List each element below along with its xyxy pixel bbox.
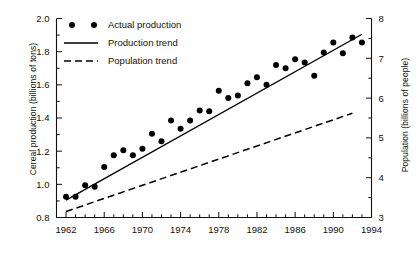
y2-tick-label: 5 bbox=[379, 132, 384, 143]
data-point bbox=[359, 40, 365, 46]
y-tick-label: 0.8 bbox=[36, 212, 49, 223]
legend-label: Actual production bbox=[108, 19, 181, 30]
data-point bbox=[206, 108, 212, 114]
data-point bbox=[168, 117, 174, 123]
y-tick-label: 2.0 bbox=[36, 13, 49, 24]
y2-tick-label: 7 bbox=[379, 53, 384, 64]
x-tick-label: 1978 bbox=[208, 224, 229, 235]
data-point bbox=[101, 164, 107, 170]
data-point bbox=[187, 117, 193, 123]
data-point bbox=[235, 93, 241, 99]
plot-area: 1962196619701974197819821986199019940.81… bbox=[0, 0, 418, 259]
data-point bbox=[292, 56, 298, 62]
data-point bbox=[216, 88, 222, 94]
population-trend-line bbox=[66, 113, 352, 211]
data-point bbox=[273, 62, 279, 68]
chart-legend: Actual productionProduction trendPopulat… bbox=[64, 19, 181, 66]
y-tick-label: 1.0 bbox=[36, 179, 49, 190]
axes bbox=[57, 19, 372, 218]
legend-label: Production trend bbox=[108, 37, 178, 48]
legend-marker-dot bbox=[69, 22, 75, 28]
data-point bbox=[197, 108, 203, 114]
x-tick-label: 1990 bbox=[323, 224, 344, 235]
x-tick-label: 1962 bbox=[55, 224, 76, 235]
data-point bbox=[254, 74, 260, 80]
y-tick-label: 1.4 bbox=[36, 112, 49, 123]
legend-label: Population trend bbox=[108, 55, 177, 66]
y2-tick-label: 4 bbox=[379, 172, 384, 183]
x-tick-label: 1974 bbox=[170, 224, 191, 235]
data-point bbox=[130, 152, 136, 158]
data-point bbox=[330, 40, 336, 46]
y-tick-label: 1.8 bbox=[36, 46, 49, 57]
y2-tick-label: 8 bbox=[379, 13, 384, 24]
data-point bbox=[283, 65, 289, 71]
data-point bbox=[111, 152, 117, 158]
x-tick-label: 1994 bbox=[361, 224, 382, 235]
data-point bbox=[139, 146, 145, 152]
y-tick-label: 1.6 bbox=[36, 79, 49, 90]
y2-tick-label: 3 bbox=[379, 212, 384, 223]
data-point bbox=[340, 50, 346, 56]
data-point bbox=[225, 95, 231, 101]
chart-figure: Cereal production (billions of tons) Pop… bbox=[0, 0, 418, 259]
x-tick-label: 1982 bbox=[246, 224, 267, 235]
data-point bbox=[159, 138, 165, 144]
x-tick-label: 1986 bbox=[285, 224, 306, 235]
data-point bbox=[178, 126, 184, 132]
data-point bbox=[149, 131, 155, 137]
x-tick-label: 1966 bbox=[94, 224, 115, 235]
axis-tick-labels: 1962196619701974197819821986199019940.81… bbox=[36, 13, 384, 235]
data-point bbox=[244, 80, 250, 86]
x-tick-label: 1970 bbox=[132, 224, 153, 235]
data-point bbox=[120, 147, 126, 153]
axis-ticks bbox=[57, 19, 372, 218]
data-point bbox=[82, 182, 88, 188]
data-point bbox=[311, 73, 317, 79]
y2-tick-label: 6 bbox=[379, 93, 384, 104]
legend-marker-dot bbox=[91, 22, 97, 28]
y-tick-label: 1.2 bbox=[36, 146, 49, 157]
